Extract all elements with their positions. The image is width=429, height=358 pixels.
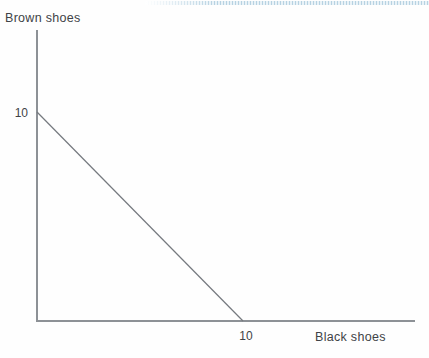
y-axis-line: [36, 30, 38, 321]
x-axis-tick-10: 10: [233, 329, 259, 343]
chart-figure: Brown shoes 10 10 Black shoes: [0, 0, 429, 358]
x-axis-label: Black shoes: [315, 330, 386, 344]
budget-line: [37, 112, 243, 321]
y-axis-tick-10: 10: [0, 106, 28, 120]
y-axis-label: Brown shoes: [5, 11, 81, 25]
page-edge-strip: [145, 1, 429, 5]
plot-area: [0, 0, 429, 358]
x-axis-line: [36, 320, 415, 322]
